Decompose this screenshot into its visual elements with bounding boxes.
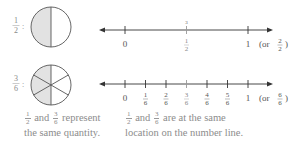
svg-text::: : <box>22 22 24 31</box>
svg-text:6: 6 <box>14 84 18 93</box>
svg-text:0: 0 <box>123 93 128 103</box>
svg-text:1: 1 <box>246 93 251 103</box>
svg-text:3: 3 <box>185 20 188 25</box>
number-line-halves: 3 0 1 2 1 (or 2 2 ) <box>99 20 288 53</box>
svg-text:2: 2 <box>278 37 282 45</box>
svg-text:6: 6 <box>226 99 230 107</box>
svg-text:2: 2 <box>278 45 282 53</box>
number-line-sixths: 0 1 6 2 6 3 6 4 6 5 6 1 (or 6 6 ) <box>99 80 288 107</box>
svg-text:6: 6 <box>278 99 282 107</box>
svg-text:1: 1 <box>246 39 251 49</box>
caption-right-line1: 12 and 36 are at the same <box>125 111 243 126</box>
fraction-three-sixths: 36 <box>154 111 160 126</box>
caption-left-line1: 12 and 36 represent <box>24 111 101 126</box>
caption-left: 12 and 36 represent the same quantity. <box>24 111 101 139</box>
svg-text:1: 1 <box>14 16 18 25</box>
circle-halves <box>31 7 71 47</box>
svg-text:3: 3 <box>14 74 18 83</box>
svg-text:3: 3 <box>185 91 189 99</box>
arrow-left-icon <box>99 82 105 87</box>
svg-text:4: 4 <box>205 91 209 99</box>
arrow-left-icon <box>99 28 105 33</box>
fraction-one-half: 12 <box>25 111 31 126</box>
svg-text::: : <box>22 80 24 89</box>
caption-left-line2: the same quantity. <box>24 126 101 139</box>
svg-text:0: 0 <box>123 39 128 49</box>
fraction-one-half: 12 <box>126 111 132 126</box>
svg-text:2: 2 <box>14 26 18 35</box>
svg-text:1: 1 <box>144 91 148 99</box>
caption-right-line2: location on the number line. <box>125 126 243 139</box>
svg-text:1: 1 <box>185 37 189 45</box>
circle-sixths <box>31 65 71 105</box>
svg-text:(or: (or <box>259 39 270 49</box>
svg-text:5: 5 <box>226 91 230 99</box>
svg-text:2: 2 <box>164 91 168 99</box>
arrow-right-icon <box>267 82 273 87</box>
svg-text:6: 6 <box>164 99 168 107</box>
svg-text:6: 6 <box>144 99 148 107</box>
svg-text:6: 6 <box>205 99 209 107</box>
svg-text:2: 2 <box>185 45 189 53</box>
svg-text:6: 6 <box>185 99 189 107</box>
arrow-right-icon <box>267 28 273 33</box>
fraction-three-sixths: 36 <box>53 111 59 126</box>
svg-text:): ) <box>285 93 288 103</box>
svg-text:(or: (or <box>259 93 270 103</box>
svg-text:6: 6 <box>278 91 282 99</box>
row2-label: 3 6 : <box>13 74 25 93</box>
row1-label: 1 2 : <box>13 16 25 35</box>
svg-text:): ) <box>285 39 288 49</box>
caption-right: 12 and 36 are at the same location on th… <box>125 111 243 139</box>
